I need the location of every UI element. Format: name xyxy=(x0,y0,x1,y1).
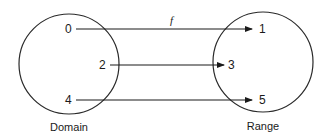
function-mapping-diagram: 0 2 4 Domain 1 3 5 Range f xyxy=(0,0,329,140)
range-caption: Range xyxy=(247,120,279,132)
domain-caption: Domain xyxy=(50,121,88,133)
domain-element-0: 0 xyxy=(65,22,72,36)
function-label-f: f xyxy=(170,14,175,26)
domain-set: 0 2 4 Domain xyxy=(19,14,119,133)
range-element-5: 5 xyxy=(259,93,266,107)
range-set: 1 3 5 Range xyxy=(213,12,313,132)
domain-element-2: 2 xyxy=(99,58,106,72)
range-element-3: 3 xyxy=(228,58,235,72)
domain-element-4: 4 xyxy=(65,93,72,107)
range-element-1: 1 xyxy=(259,22,266,36)
